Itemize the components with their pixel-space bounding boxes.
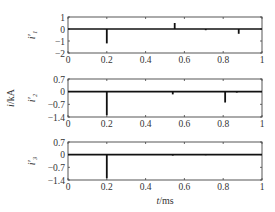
y-tick-label: 1 <box>60 13 65 23</box>
x-tick-label: 0 <box>66 182 71 192</box>
y-tick-label: 0 <box>60 25 65 35</box>
x-tick-label: 0.6 <box>178 119 190 129</box>
y-tick-label: 0 <box>60 150 65 160</box>
x-tick-label: 0.8 <box>217 55 229 65</box>
y-tick-label: 0.7 <box>53 75 65 85</box>
plot-frame <box>68 17 262 53</box>
x-axis-label: t/ms <box>156 195 173 206</box>
x-tick-label: 0.4 <box>140 119 152 129</box>
y-tick-label: 0.7 <box>53 138 65 148</box>
x-tick-label: 1 <box>260 119 265 129</box>
x-tick-label: 0.8 <box>217 119 229 129</box>
y-tick-label: −1.4 <box>48 176 65 186</box>
x-tick-label: 0 <box>66 119 71 129</box>
y-axis-label-2: i′₂ <box>26 93 37 102</box>
y-tick-label: −0.7 <box>48 100 65 110</box>
y-tick-label: −1.4 <box>48 113 65 123</box>
y-axis-label-1: i′₁ <box>26 31 37 39</box>
x-tick-label: 0.4 <box>140 182 152 192</box>
y-axis-label-3: i′₃ <box>26 156 37 165</box>
x-tick-label: 1 <box>260 55 265 65</box>
x-tick-label: 0.4 <box>140 55 152 65</box>
x-tick-label: 1 <box>260 182 265 192</box>
subplot-3: 00.20.40.60.810.70−0.7−1.4i′₃ <box>26 138 265 193</box>
x-tick-label: 0.6 <box>178 55 190 65</box>
x-tick-label: 0.8 <box>217 182 229 192</box>
subplot-2: 00.20.40.60.810.70−0.7−1.4i′₂ <box>26 75 265 130</box>
plot-frame <box>68 142 262 180</box>
y-tick-label: −1 <box>55 37 65 47</box>
subplot-1: 00.20.40.60.8110−1−2i′₁ <box>26 13 265 66</box>
x-tick-label: 0.2 <box>101 55 113 65</box>
chart-figure: 00.20.40.60.8110−1−2i′₁00.20.40.60.810.7… <box>0 0 275 212</box>
x-tick-label: 0.6 <box>178 182 190 192</box>
plot-frame <box>68 79 262 117</box>
x-tick-label: 0.2 <box>101 119 113 129</box>
x-tick-label: 0 <box>66 55 71 65</box>
y-tick-label: −0.7 <box>48 163 65 173</box>
y-tick-label: −2 <box>55 49 65 59</box>
x-tick-label: 0.2 <box>101 182 113 192</box>
shared-y-axis-label: i/kA <box>5 88 16 107</box>
y-tick-label: 0 <box>60 87 65 97</box>
